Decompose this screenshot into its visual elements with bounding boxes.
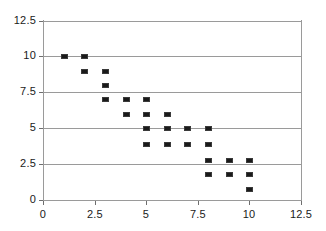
data-point — [143, 126, 150, 131]
plot-frame-right — [301, 20, 302, 201]
data-point — [184, 126, 191, 131]
gridline-y — [43, 128, 302, 129]
data-point — [205, 172, 212, 177]
data-point — [205, 126, 212, 131]
data-point — [123, 97, 130, 102]
data-point — [61, 54, 68, 59]
data-point — [143, 142, 150, 147]
gridline-y — [43, 164, 302, 165]
data-point — [226, 172, 233, 177]
x-axis-line — [43, 200, 302, 201]
data-point — [102, 97, 109, 102]
data-point — [164, 112, 171, 117]
x-tick-label-text: 2.5 — [75, 208, 115, 220]
data-point — [81, 54, 88, 59]
y-tick-label: 2.5 — [0, 158, 36, 169]
data-point — [164, 126, 171, 131]
data-point — [205, 158, 212, 163]
gridline-y — [43, 92, 302, 93]
y-tick-label: 5 — [0, 122, 36, 133]
x-tick-label-text: 12.5 — [281, 208, 321, 220]
y-axis-line — [43, 20, 44, 201]
data-point — [184, 142, 191, 147]
x-tick — [301, 201, 302, 205]
y-tick-label-text: 12.5 — [14, 15, 36, 26]
data-point — [205, 142, 212, 147]
data-point — [246, 158, 253, 163]
x-tick-label: 5 — [126, 208, 166, 220]
x-tick — [95, 201, 96, 205]
x-tick-label: 2.5 — [75, 208, 115, 220]
y-tick-label: 0 — [0, 194, 36, 205]
data-point — [102, 83, 109, 88]
data-point — [143, 97, 150, 102]
y-tick-label-text: 10 — [23, 50, 36, 61]
y-tick-label-text: 2.5 — [20, 158, 36, 169]
data-point — [102, 69, 109, 74]
data-point — [246, 172, 253, 177]
x-tick-label: 12.5 — [281, 208, 321, 220]
x-tick-label: 7.5 — [178, 208, 218, 220]
x-tick-label: 10 — [229, 208, 269, 220]
y-tick-label: 7.5 — [0, 86, 36, 97]
scatter-chart: 02.557.51012.5 02.557.51012.5 — [0, 0, 326, 231]
data-point — [246, 187, 253, 192]
x-tick-label-text: 5 — [126, 208, 166, 220]
gridline-y — [43, 21, 302, 22]
x-tick — [43, 201, 44, 205]
data-point — [81, 69, 88, 74]
x-tick-label-text: 7.5 — [178, 208, 218, 220]
x-tick-label: 0 — [23, 208, 63, 220]
y-tick-label-text: 5 — [30, 122, 36, 133]
y-tick-label: 12.5 — [0, 15, 36, 26]
data-point — [164, 142, 171, 147]
data-point — [143, 112, 150, 117]
y-tick-label-text: 0 — [30, 194, 36, 205]
data-point — [123, 112, 130, 117]
x-tick — [146, 201, 147, 205]
x-tick — [249, 201, 250, 205]
x-tick-label-text: 0 — [23, 208, 63, 220]
x-tick — [198, 201, 199, 205]
y-tick-label: 10 — [0, 50, 36, 61]
y-tick-label-text: 7.5 — [20, 86, 36, 97]
data-point — [226, 158, 233, 163]
x-tick-label-text: 10 — [229, 208, 269, 220]
